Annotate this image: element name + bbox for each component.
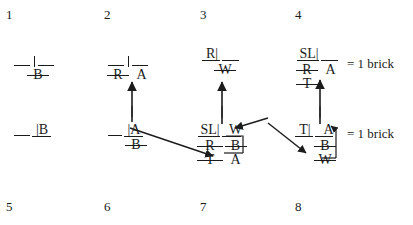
- panel-5-rule-left: [14, 135, 30, 136]
- panel-8-symbol-a: A: [319, 122, 339, 137]
- panel-4-symbol-a: A: [321, 62, 341, 77]
- panel-number-8: 8: [295, 200, 302, 213]
- panel-3-underline-left: [202, 60, 220, 61]
- panel-8-underline-left: [295, 136, 313, 137]
- legend-brick-bottom: = 1 brick: [347, 127, 394, 140]
- panel-6-rule-left: [108, 135, 122, 136]
- panel-2-vertical-tick: [128, 56, 129, 67]
- legend-brick-top: = 1 brick: [347, 57, 394, 70]
- panel-6-symbol-a: |A: [124, 122, 144, 137]
- panel-6-symbol-b: B: [126, 137, 146, 152]
- panel-4-underline-left: [297, 60, 319, 61]
- panel-2-rule-right: [132, 65, 148, 66]
- panel-4-underline-right: [321, 60, 338, 61]
- panel-1-vertical-tick: [34, 56, 35, 67]
- panel-7-symbol-t: T: [198, 152, 222, 167]
- panel-number-7: 7: [200, 200, 207, 213]
- panel-7-symbol-sl: SL|: [198, 122, 222, 137]
- panel-number-2: 2: [104, 8, 111, 21]
- panel-8-underline-right: [315, 136, 333, 137]
- panel-number-5: 5: [6, 200, 13, 213]
- panel-3-symbol-r: R|: [202, 46, 222, 61]
- panel-7-symbol-a: A: [226, 152, 246, 167]
- panel-1-rule-right: [38, 65, 54, 66]
- panel-4-symbol-t: T: [297, 76, 317, 91]
- panel-1-rule-left: [14, 65, 30, 66]
- panel-number-3: 3: [200, 8, 207, 21]
- panel-2-rule-left: [108, 65, 124, 66]
- panel-3-symbol-w: W: [215, 62, 235, 77]
- panel-number-4: 4: [295, 8, 302, 21]
- panel-7-symbol-w: W: [226, 122, 246, 137]
- panel-5-underline: [32, 136, 51, 137]
- panel-8-symbol-b: B: [315, 138, 335, 153]
- panel-7-symbol-b: B: [226, 138, 246, 153]
- panel-8-symbol-t: T|: [295, 122, 315, 137]
- arrow-layer: [0, 0, 413, 225]
- panel-7-underline-right: [222, 136, 241, 137]
- panel-2-symbol-a: A: [132, 67, 152, 82]
- panel-4-symbol-sl: SL|: [297, 46, 321, 61]
- panel-5-symbol-b: |B: [32, 122, 52, 137]
- panel-2-symbol-r: R: [108, 67, 128, 82]
- brick-stack-figure: 1 2 3 4 5 6 7 8 B R A R| W: [0, 0, 413, 225]
- panel-7-symbol-r: R: [198, 138, 222, 153]
- panel-8-symbol-w: W: [315, 152, 335, 167]
- panel-3-underline-right: [222, 60, 239, 61]
- panel-7-underline-left: [198, 136, 220, 137]
- panel-1-symbol-b: B: [28, 67, 48, 82]
- panel-4-symbol-r: R: [297, 62, 317, 77]
- panel-number-1: 1: [6, 8, 13, 21]
- panel-number-6: 6: [104, 200, 111, 213]
